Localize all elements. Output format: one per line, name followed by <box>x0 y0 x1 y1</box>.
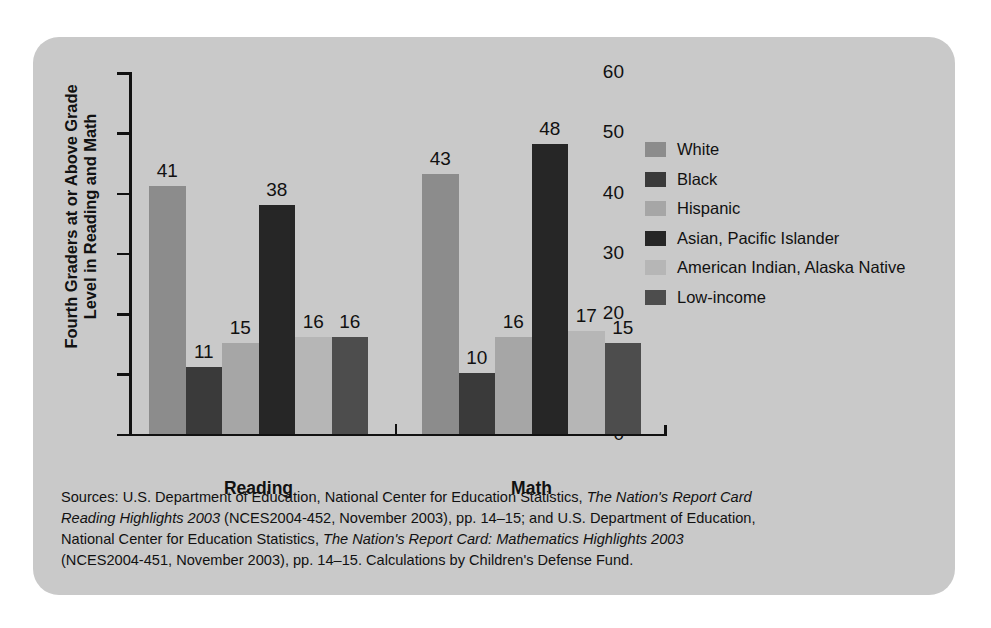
bar-value-label: 38 <box>266 179 287 201</box>
y-axis-tick <box>117 193 129 196</box>
legend-swatch-icon <box>645 142 666 157</box>
source-note-line-3-text: National Center for Education Statistics… <box>61 531 323 547</box>
bar <box>149 186 186 433</box>
y-axis-tick-label: 40 <box>578 182 624 204</box>
source-note: Sources: U.S. Department of Education, N… <box>61 487 937 572</box>
y-axis-title-line-1: Fourth Graders at or Above Grade <box>62 51 81 381</box>
legend-item-label: Asian, Pacific Islander <box>677 229 839 248</box>
legend-item-label: White <box>677 140 719 159</box>
bar <box>532 144 569 433</box>
y-axis-tick <box>117 434 129 437</box>
x-axis-end-tick <box>664 425 667 436</box>
legend-swatch-icon <box>645 201 666 216</box>
bar-value-label: 10 <box>466 347 487 369</box>
legend-item-label: Low-income <box>677 288 766 307</box>
x-axis-group-divider-tick <box>395 424 397 436</box>
y-axis-tick-label: 30 <box>578 242 624 264</box>
bar-value-label: 41 <box>157 160 178 182</box>
bar-value-label: 48 <box>539 118 560 140</box>
legend-item[interactable]: Asian, Pacific Islander <box>645 224 905 254</box>
legend-item[interactable]: American Indian, Alaska Native <box>645 253 905 283</box>
y-axis-title-line-2: Level in Reading and Math <box>81 51 100 381</box>
bar-value-label: 16 <box>303 311 324 333</box>
source-note-line-2-text: (NCES2004-452, November 2003), pp. 14–15… <box>220 510 755 526</box>
bar <box>568 331 605 433</box>
y-axis-tick <box>117 132 129 135</box>
source-note-line-4: (NCES2004-451, November 2003), pp. 14–15… <box>61 550 937 571</box>
bar-value-label: 17 <box>576 305 597 327</box>
legend-item-label: Hispanic <box>677 199 740 218</box>
source-note-line-1-text: Sources: U.S. Department of Education, N… <box>61 489 587 505</box>
figure-card: Fourth Graders at or Above Grade Level i… <box>33 37 955 595</box>
source-note-line-2: Reading Highlights 2003 (NCES2004-452, N… <box>61 508 937 529</box>
bar-value-label: 16 <box>503 311 524 333</box>
y-axis-tick <box>117 253 129 256</box>
y-axis-tick-label: 60 <box>578 61 624 83</box>
legend-swatch-icon <box>645 231 666 246</box>
source-note-line-3: National Center for Education Statistics… <box>61 529 937 550</box>
bar <box>422 174 459 433</box>
bar <box>222 343 259 433</box>
legend-item-label: American Indian, Alaska Native <box>677 258 905 277</box>
bar <box>495 337 532 433</box>
y-axis-tick <box>117 72 129 75</box>
bar-value-label: 15 <box>612 317 633 339</box>
bar-value-label: 11 <box>194 341 214 363</box>
source-note-line-3-italic: The Nation's Report Card: Mathematics Hi… <box>323 531 684 547</box>
bar-value-label: 16 <box>339 311 360 333</box>
legend-swatch-icon <box>645 290 666 305</box>
bar <box>186 367 223 433</box>
y-axis-tick <box>117 313 129 316</box>
chart-legend: WhiteBlackHispanicAsian, Pacific Islande… <box>645 135 905 312</box>
y-axis-tick <box>117 373 129 376</box>
bar-value-label: 15 <box>230 317 251 339</box>
bar <box>605 343 642 433</box>
y-axis-line <box>129 72 132 436</box>
legend-item[interactable]: Low-income <box>645 283 905 313</box>
plot: 0102030405060 411115381616431016481715 R… <box>129 72 729 436</box>
source-note-line-2-italic: Reading Highlights 2003 <box>61 510 220 526</box>
bar <box>332 337 369 433</box>
y-axis-tick-label: 50 <box>578 121 624 143</box>
legend-item[interactable]: White <box>645 135 905 165</box>
source-note-line-1-italic: The Nation's Report Card <box>587 489 752 505</box>
legend-item-label: Black <box>677 170 717 189</box>
legend-item[interactable]: Black <box>645 165 905 195</box>
legend-swatch-icon <box>645 172 666 187</box>
source-note-line-1: Sources: U.S. Department of Education, N… <box>61 487 937 508</box>
y-axis-title: Fourth Graders at or Above Grade Level i… <box>62 51 101 381</box>
legend-swatch-icon <box>645 260 666 275</box>
bar-value-label: 43 <box>430 148 451 170</box>
legend-item[interactable]: Hispanic <box>645 194 905 224</box>
bar <box>459 373 496 433</box>
bar <box>295 337 332 433</box>
bar <box>259 205 296 434</box>
